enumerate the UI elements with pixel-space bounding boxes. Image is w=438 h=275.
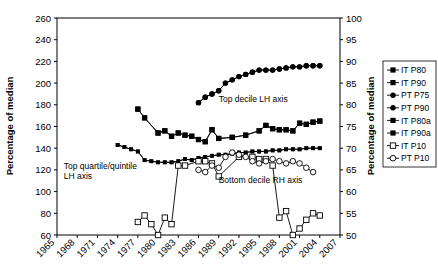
x-tick-label: 1983 bbox=[155, 237, 178, 260]
data-point bbox=[310, 120, 315, 125]
series-it-p80 bbox=[135, 107, 322, 145]
data-point bbox=[135, 219, 140, 224]
legend-marker bbox=[390, 143, 395, 148]
data-point bbox=[283, 208, 288, 213]
data-point bbox=[136, 150, 140, 154]
data-point bbox=[304, 63, 309, 68]
x-tick-label: 1968 bbox=[54, 237, 77, 260]
data-point bbox=[162, 215, 167, 220]
data-point bbox=[304, 146, 308, 150]
legend-marker bbox=[390, 118, 395, 123]
legend-label: PT P75 bbox=[401, 90, 429, 100]
data-point bbox=[304, 122, 309, 127]
data-point bbox=[277, 127, 282, 132]
y-right-tick-label: 75 bbox=[346, 121, 357, 132]
data-point bbox=[250, 158, 256, 164]
y-right-tick-label: 90 bbox=[346, 56, 357, 67]
series-it-p90 bbox=[135, 107, 322, 145]
data-point bbox=[243, 72, 248, 77]
y-left-tick-label: 160 bbox=[35, 121, 51, 132]
y-left-tick-label: 140 bbox=[35, 143, 51, 154]
data-point bbox=[310, 169, 316, 175]
chart-annotations: Top decile LH axisTop quartile/quintileL… bbox=[64, 94, 303, 185]
data-point bbox=[290, 232, 295, 237]
data-point bbox=[277, 158, 283, 164]
data-point bbox=[283, 161, 289, 167]
data-point bbox=[317, 63, 322, 68]
data-point bbox=[318, 146, 322, 150]
x-axis-ticks: 1965196819711974197719801983198619891992… bbox=[34, 235, 340, 259]
series-it-p10 bbox=[135, 154, 322, 238]
data-point bbox=[283, 65, 288, 70]
data-point bbox=[176, 163, 181, 168]
data-point bbox=[264, 150, 268, 154]
data-point bbox=[142, 115, 147, 120]
y-left-tick-label: 180 bbox=[35, 99, 51, 110]
data-point bbox=[196, 137, 201, 142]
series-line bbox=[138, 157, 320, 235]
annotation-text: Top decile LH axis bbox=[219, 94, 288, 104]
y-left-tick-label: 220 bbox=[35, 56, 51, 67]
data-point bbox=[291, 147, 295, 151]
data-point bbox=[202, 169, 208, 175]
data-point bbox=[155, 130, 160, 135]
data-point bbox=[229, 77, 234, 82]
data-point bbox=[304, 217, 309, 222]
data-point bbox=[182, 163, 187, 168]
data-point bbox=[283, 127, 288, 132]
legend-label: PT P90 bbox=[401, 103, 429, 113]
data-point bbox=[256, 161, 262, 167]
y-left-tick-label: 120 bbox=[35, 164, 51, 175]
data-point bbox=[116, 143, 120, 147]
data-point bbox=[236, 74, 241, 79]
data-point bbox=[216, 136, 221, 141]
series-line bbox=[138, 109, 320, 142]
legend-label: PT P10 bbox=[401, 153, 429, 163]
data-point bbox=[176, 130, 181, 135]
data-point bbox=[270, 126, 275, 131]
data-point bbox=[230, 135, 235, 140]
annotation-text: Top quartile/quintile bbox=[64, 161, 138, 171]
data-point bbox=[210, 154, 214, 158]
data-point bbox=[216, 165, 222, 171]
data-point bbox=[223, 80, 228, 85]
x-tick-label: 1980 bbox=[135, 237, 158, 260]
annotation-text: Bottom decile RH axis bbox=[219, 175, 303, 185]
data-point bbox=[263, 158, 269, 164]
legend-label: IT P90 bbox=[401, 78, 426, 88]
data-point bbox=[270, 156, 276, 162]
y-axis-left-title: Percentage of median bbox=[4, 76, 15, 175]
data-point bbox=[223, 154, 229, 160]
data-point bbox=[209, 127, 214, 132]
y-right-tick-label: 100 bbox=[346, 13, 362, 24]
y-left-tick-label: 260 bbox=[35, 13, 51, 24]
y-right-tick-label: 70 bbox=[346, 143, 357, 154]
data-point bbox=[243, 154, 249, 160]
x-tick-label: 1977 bbox=[115, 237, 138, 260]
legend-marker bbox=[390, 130, 395, 135]
data-point bbox=[310, 63, 315, 68]
data-point bbox=[209, 91, 214, 96]
y-right-tick-label: 50 bbox=[346, 230, 357, 241]
data-point bbox=[149, 159, 153, 163]
data-point bbox=[317, 213, 322, 218]
x-tick-label: 1989 bbox=[195, 237, 218, 260]
data-point bbox=[217, 153, 221, 157]
legend-label: IT P80 bbox=[401, 65, 426, 75]
data-point bbox=[257, 128, 262, 133]
data-point bbox=[149, 221, 154, 226]
data-point bbox=[196, 100, 201, 105]
y-right-tick-label: 85 bbox=[346, 78, 357, 89]
y-left-tick-label: 80 bbox=[40, 208, 51, 219]
y-right-tick-label: 55 bbox=[346, 208, 357, 219]
data-point bbox=[135, 107, 140, 112]
x-tick-label: 1974 bbox=[94, 237, 117, 260]
legend-marker bbox=[390, 80, 395, 85]
y-left-tick-label: 60 bbox=[40, 230, 51, 241]
data-point bbox=[142, 213, 147, 218]
legend-label: IT P90a bbox=[401, 128, 431, 138]
data-point bbox=[190, 158, 194, 162]
data-point bbox=[317, 118, 322, 123]
y-left-tick-label: 200 bbox=[35, 78, 51, 89]
y-right-tick-label: 65 bbox=[346, 164, 357, 175]
